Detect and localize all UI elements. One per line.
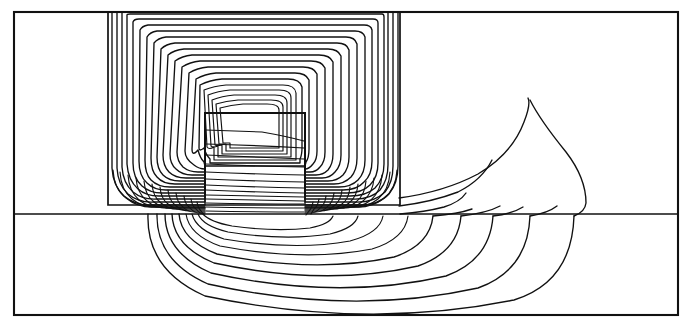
contour-figure (0, 0, 697, 329)
contour-plot-svg (0, 0, 697, 329)
